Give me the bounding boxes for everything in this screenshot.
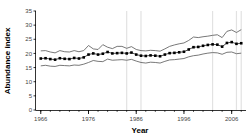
data-point-marker <box>140 54 143 57</box>
data-point-marker <box>73 57 76 60</box>
figure-container: 05101520253035 19661976198619962006 Abun… <box>0 0 249 138</box>
data-point-marker <box>125 52 128 55</box>
x-tick-label: 2006 <box>225 116 239 122</box>
data-point-marker <box>92 52 95 55</box>
data-point-marker <box>216 43 219 46</box>
data-point-marker <box>44 57 47 60</box>
x-tick-label: 1986 <box>130 116 144 122</box>
y-tick-label: 30 <box>25 22 32 28</box>
data-point-marker <box>240 42 243 45</box>
data-point-marker <box>97 53 100 56</box>
data-point-marker <box>106 51 109 54</box>
data-point-marker <box>59 57 62 60</box>
data-point-marker <box>63 58 66 61</box>
data-point-marker <box>78 57 81 60</box>
data-point-marker <box>192 46 195 49</box>
y-tick-label: 15 <box>25 65 32 71</box>
abundance-index-chart: 05101520253035 19661976198619962006 Abun… <box>0 0 249 138</box>
y-tick-label: 10 <box>25 79 32 85</box>
data-point-marker <box>102 52 105 55</box>
data-point-marker <box>187 48 190 51</box>
data-point-marker <box>135 53 138 56</box>
x-tick-label: 1976 <box>82 116 96 122</box>
data-point-marker <box>159 55 162 58</box>
data-point-marker <box>164 53 167 56</box>
data-point-marker <box>154 54 157 57</box>
data-point-marker <box>49 58 52 61</box>
y-tick-label: 25 <box>25 36 32 42</box>
data-point-marker <box>202 44 205 47</box>
data-point-marker <box>116 52 119 55</box>
data-point-marker <box>68 58 71 61</box>
data-point-marker <box>197 46 200 49</box>
data-point-marker <box>121 52 124 55</box>
y-tick-label: 20 <box>25 51 32 57</box>
data-point-marker <box>54 58 57 61</box>
data-point-marker <box>111 52 114 55</box>
data-point-marker <box>226 42 229 45</box>
data-point-marker <box>130 51 133 54</box>
data-point-marker <box>235 43 238 46</box>
y-axis-label: Abundance index <box>3 27 12 94</box>
x-tick-label: 1996 <box>177 116 191 122</box>
data-point-marker <box>221 45 224 48</box>
figure-caption <box>0 130 249 138</box>
data-point-marker <box>211 43 214 46</box>
data-point-marker <box>82 56 85 59</box>
data-point-marker <box>39 57 42 60</box>
data-point-marker <box>178 51 181 54</box>
y-tick-label: 35 <box>25 8 32 14</box>
data-point-marker <box>144 55 147 58</box>
data-point-marker <box>183 50 186 53</box>
x-tick-label: 1966 <box>34 116 48 122</box>
data-point-marker <box>207 44 210 47</box>
data-point-marker <box>173 52 176 55</box>
data-point-marker <box>230 41 233 44</box>
data-point-marker <box>149 54 152 57</box>
data-point-marker <box>168 52 171 55</box>
data-point-marker <box>87 53 90 56</box>
